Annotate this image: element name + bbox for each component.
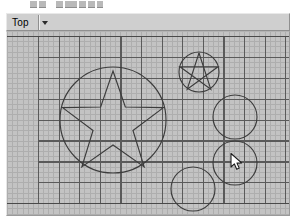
- canvas-inner[interactable]: [7, 32, 289, 215]
- canvas-vector-layer: [7, 32, 289, 215]
- drawing-canvas[interactable]: [6, 31, 290, 216]
- viewport-label-divider: [38, 15, 40, 30]
- application-window: Top: [0, 0, 297, 224]
- tool-icon-7[interactable]: [97, 1, 103, 8]
- tool-icon-3[interactable]: [56, 1, 63, 8]
- big-star[interactable]: [63, 71, 164, 167]
- tool-icon-4[interactable]: [65, 1, 77, 8]
- tool-icon-5[interactable]: [79, 1, 86, 8]
- mouse-cursor-icon: [230, 153, 244, 171]
- tool-icon-2[interactable]: [39, 1, 46, 8]
- viewport-view-label: Top: [12, 16, 29, 29]
- grid-minor-lines: [7, 32, 289, 215]
- viewport-header-bar: Top: [6, 13, 290, 31]
- tool-icon-1[interactable]: [30, 1, 37, 8]
- circle-right-upper[interactable]: [213, 95, 257, 139]
- toolbar-strip-truncated[interactable]: [0, 0, 297, 9]
- chevron-down-icon[interactable]: [42, 21, 48, 25]
- tool-icon-6[interactable]: [88, 1, 95, 8]
